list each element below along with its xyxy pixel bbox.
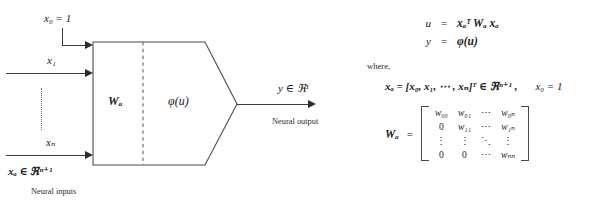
equation-u-rhs: xₐᵀ Wₐ xₐ — [457, 17, 499, 29]
where-label: where, — [367, 61, 390, 71]
neuron-block-diagram: x₀ = 1 x₁ xₙ Wₐ φ(u) — [0, 0, 340, 205]
matrix-cell: ⋮ — [430, 134, 453, 148]
table-row: 0 0 ⋯ wₙₙ — [430, 147, 520, 161]
equation-panel: u = xₐᵀ Wₐ xₐ y = φ(u) where, xₐ = [x₀, … — [340, 0, 607, 205]
matrix-cell: 0 — [430, 147, 453, 161]
matrix-definition: Wₐ = w₀₀ w₀₁ ⋯ w₀ₙ 0 w₁₁ ⋯ w₁ₙ — [385, 106, 529, 161]
matrix-cell: wₙₙ — [496, 147, 520, 161]
matrix-cell: ⋮ — [496, 134, 520, 148]
output-line — [237, 104, 310, 105]
matrix-bracket-right — [521, 106, 529, 161]
bias-input-label: x₀ = 1 — [44, 12, 71, 24]
input-line-xn — [6, 155, 86, 156]
matrix-cell: ⋯ — [476, 106, 496, 120]
vector-definition-main: xₐ = [x₀, x₁, ⋯ , xₙ]ᵀ ∈ ℜⁿ⁺¹ , — [385, 80, 517, 92]
activation-block-label: φ(u) — [168, 94, 189, 109]
table-row: w₀₀ w₀₁ ⋯ w₀ₙ — [430, 106, 520, 120]
matrix-cell: w₁₁ — [453, 120, 476, 134]
matrix-bracket-left — [421, 106, 429, 161]
weight-block-label: Wₐ — [108, 94, 122, 109]
matrix-cell: w₀₀ — [430, 106, 453, 120]
matrix-cell: w₀ₙ — [496, 106, 520, 120]
equation-y-rhs: φ(u) — [457, 35, 478, 47]
matrix-cell: 0 — [453, 147, 476, 161]
equation-u: u = xₐᵀ Wₐ xₐ — [415, 17, 499, 29]
matrix-cell: 0 — [430, 120, 453, 134]
matrix-cell: ⋮ — [453, 134, 476, 148]
equation-y: y = φ(u) — [415, 35, 478, 47]
matrix-body: w₀₀ w₀₁ ⋯ w₀ₙ 0 w₁₁ ⋯ w₁ₙ ⋮ ⋮ ⋱ — [421, 106, 529, 161]
input-label-x1: x₁ — [47, 54, 56, 66]
vector-definition-constraint: x₀ = 1 — [535, 80, 562, 92]
input-ellipsis — [41, 88, 42, 130]
input-space-label: xₐ ∈ ℜⁿ⁺¹ — [8, 165, 52, 178]
table-row: ⋮ ⋮ ⋱ ⋮ — [430, 134, 520, 148]
input-line-x1 — [6, 73, 86, 74]
equation-u-relation: = — [431, 17, 457, 29]
matrix-relation: = — [407, 128, 413, 140]
table-row: 0 w₁₁ ⋯ w₁ₙ — [430, 120, 520, 134]
output-label: y ∈ ℜ¹ — [278, 82, 309, 95]
matrix-cell: ⋯ — [476, 147, 496, 161]
equation-u-lhs: u — [415, 17, 431, 29]
output-caption: Neural output — [272, 117, 318, 126]
equation-y-lhs: y — [415, 35, 431, 47]
output-arrowhead — [308, 100, 316, 108]
matrix-cell: ⋯ — [476, 120, 496, 134]
input-caption: Neural inputs — [31, 187, 76, 196]
input-label-xn: xₙ — [46, 136, 55, 149]
matrix-cell: w₁ₙ — [496, 120, 520, 134]
bias-connector-vertical — [62, 28, 63, 45]
matrix-label: Wₐ — [385, 128, 399, 140]
matrix-table: w₀₀ w₀₁ ⋯ w₀ₙ 0 w₁₁ ⋯ w₁ₙ ⋮ ⋮ ⋱ — [430, 106, 520, 161]
matrix-cell: w₀₁ — [453, 106, 476, 120]
vector-definition: xₐ = [x₀, x₁, ⋯ , xₙ]ᵀ ∈ ℜⁿ⁺¹ , x₀ = 1 — [385, 76, 563, 94]
equation-y-relation: = — [431, 35, 457, 47]
matrix-cell: ⋱ — [476, 134, 496, 148]
bias-connector-horizontal — [62, 45, 86, 46]
figure-canvas: x₀ = 1 x₁ xₙ Wₐ φ(u) — [0, 0, 607, 205]
